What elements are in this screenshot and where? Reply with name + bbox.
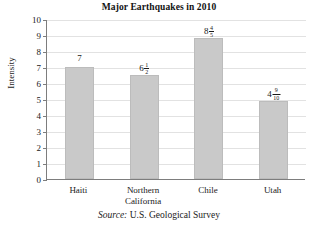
y-axis-tick — [43, 68, 47, 69]
y-axis-tick — [43, 20, 47, 21]
earthquake-bar-chart-figure: Major Earthquakes in 2010 Intensity 1098… — [0, 0, 318, 228]
x-axis-label: Haiti — [69, 185, 87, 196]
page-title: Major Earthquakes in 2010 — [0, 2, 318, 12]
y-axis-tick-label: 10 — [32, 16, 41, 25]
source-value: U.S. Geological Survey — [130, 210, 220, 220]
y-axis-tick — [43, 36, 47, 37]
gridline — [47, 36, 306, 37]
value-whole-part: 6 — [139, 63, 144, 73]
bar-haiti — [65, 67, 94, 179]
y-axis-tick-label: 1 — [37, 160, 42, 169]
fraction-denominator: 10 — [272, 94, 280, 101]
y-axis-tick-label: 2 — [37, 144, 42, 153]
y-axis-tick — [43, 148, 47, 149]
y-axis-tick-label: 3 — [37, 128, 42, 137]
fraction-denominator: 5 — [209, 31, 214, 38]
bar-northern-california — [130, 75, 159, 179]
y-axis-tick-label: 9 — [37, 32, 42, 41]
x-axis-label: Chile — [198, 185, 218, 196]
y-axis-tick — [43, 132, 47, 133]
value-fraction-part: 910 — [272, 87, 280, 101]
value-fraction-part: 45 — [209, 25, 214, 39]
x-axis-label-line: Utah — [264, 185, 282, 196]
y-axis-tick — [43, 100, 47, 101]
y-axis-tick — [43, 52, 47, 53]
source-note: Source: U.S. Geological Survey — [0, 210, 318, 220]
value-whole-part: 7 — [77, 53, 82, 63]
y-axis-tick-label: 0 — [37, 176, 42, 185]
bar-value-label: 845 — [204, 25, 214, 39]
gridline — [47, 52, 306, 53]
y-axis-tick — [43, 164, 47, 165]
y-axis-tick — [43, 116, 47, 117]
y-axis-tick-label: 5 — [37, 96, 42, 105]
x-axis-label-line: California — [125, 196, 162, 207]
bar-chile — [194, 38, 223, 179]
value-whole-part: 4 — [267, 89, 272, 99]
plot-area: 109876543210 76128454910 — [46, 20, 305, 180]
fraction-denominator: 2 — [144, 68, 149, 75]
bar-value-label: 4910 — [267, 88, 280, 102]
y-axis-tick-label: 6 — [37, 80, 42, 89]
x-axis-label-line: Haiti — [69, 185, 87, 196]
bar-utah — [259, 101, 288, 179]
source-prefix: Source: — [98, 210, 127, 220]
y-axis-tick-label: 4 — [37, 112, 42, 121]
bar-value-label: 7 — [77, 54, 82, 63]
gridline — [47, 180, 306, 181]
x-axis-label-line: Northern — [125, 185, 162, 196]
value-fraction-part: 12 — [144, 62, 149, 76]
x-axis-label-line: Chile — [198, 185, 218, 196]
bar-value-label: 612 — [139, 62, 149, 76]
x-axis-label: Utah — [264, 185, 282, 196]
y-axis-tick-label: 7 — [37, 64, 42, 73]
y-axis-tick — [43, 180, 47, 181]
y-axis-tick-label: 8 — [37, 48, 42, 57]
y-axis-title: Intensity — [6, 28, 16, 118]
value-whole-part: 8 — [204, 26, 209, 36]
x-axis-label: NorthernCalifornia — [125, 185, 162, 206]
gridline — [47, 20, 306, 21]
y-axis-tick — [43, 84, 47, 85]
